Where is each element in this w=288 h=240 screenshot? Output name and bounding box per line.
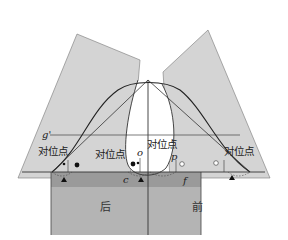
label-c: c (123, 174, 129, 185)
sleeve-cap-diagram: g' 对位点 对位点 对位点 对位点 o p c f 后 前 (0, 0, 288, 240)
label-contra-right-outer: 对位点 (224, 145, 254, 157)
label-front: 前 (192, 200, 203, 214)
dot-left-2 (63, 163, 66, 166)
label-p: p (171, 151, 178, 162)
label-contra-left-inner: 对位点 (95, 148, 125, 160)
label-g-prime: g' (42, 129, 51, 140)
label-contra-left-outer: 对位点 (38, 145, 68, 157)
label-o: o (137, 147, 143, 158)
dot-center-2 (137, 162, 140, 165)
label-contra-center: 对位点 (147, 138, 177, 150)
dot-center-1 (131, 162, 136, 167)
hollow-dot-right (214, 161, 219, 166)
label-back: 后 (100, 201, 111, 214)
hollow-dot-f (180, 162, 185, 167)
dot-left-1 (75, 163, 80, 168)
